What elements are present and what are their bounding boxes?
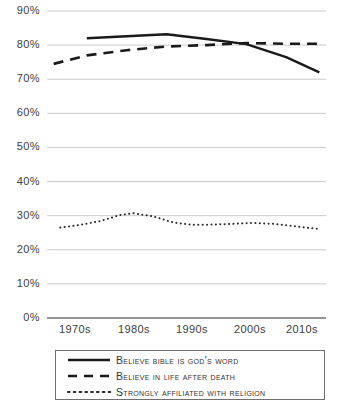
legend-item-afterlife: Believe in life after death [56,368,324,384]
legend-item-bible: Believe bible is God's word [56,352,324,368]
y-tick-label: 60% [0,106,40,118]
y-tick-label: 40% [0,175,40,187]
x-tick-label: 2000s [220,323,280,335]
x-tick-label: 1980s [104,323,164,335]
legend-swatch-solid-icon [66,353,116,367]
y-tick-label: 20% [0,243,40,255]
legend-swatch-dashed-icon [66,369,116,383]
chart-legend: Believe bible is God's word Believe in l… [55,350,325,400]
y-tick-label: 10% [0,277,40,289]
legend-item-affiliation: Strongly affiliated with religion [56,384,324,400]
religion-trends-line-chart: 0%10%20%30%40%50%60%70%80%90% 1970s1980s… [0,0,338,414]
legend-label-afterlife: Believe in life after death [116,369,235,383]
y-tick-label: 0% [0,311,40,323]
legend-label-affiliation: Strongly affiliated with religion [116,385,265,399]
legend-swatch-dotted-icon [66,385,116,399]
legend-label-bible: Believe bible is God's word [116,353,239,367]
series-line-0 [87,34,319,72]
x-tick-label: 1990s [162,323,222,335]
y-tick-label: 90% [0,4,40,16]
y-tick-label: 80% [0,38,40,50]
x-tick-label: 1970s [45,323,105,335]
y-tick-label: 30% [0,209,40,221]
y-tick-label: 70% [0,72,40,84]
y-tick-label: 50% [0,140,40,152]
x-tick-label: 2010s [272,323,332,335]
series-line-1 [54,43,320,64]
